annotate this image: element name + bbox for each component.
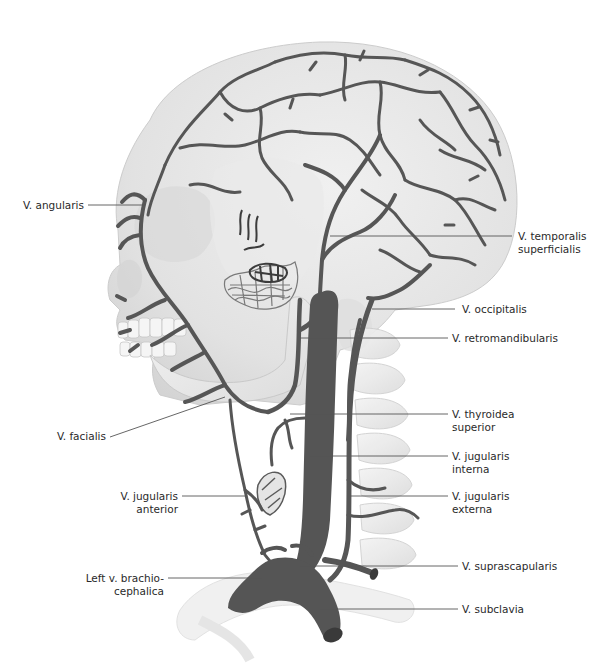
label-line: anterior [60,503,178,516]
label-line: Left v. brachio- [40,572,164,585]
label-v-jugularis-interna: V. jugularis interna [452,450,509,476]
label-v-jugularis-externa: V. jugularis externa [452,490,509,516]
label-line: V. jugularis [452,490,509,503]
label-v-jugularis-anterior: V. jugularis anterior [60,490,178,516]
label-v-suprascapularis: V. suprascapularis [462,560,557,573]
label-line: V. thyroidea [452,408,514,421]
anatomy-figure: V. angularis V. facialis V. jugularis an… [0,0,608,667]
v-thyroidea-superior [271,418,305,465]
label-line: V. retromandibularis [452,332,558,345]
label-v-facialis: V. facialis [20,430,106,443]
label-line: superficialis [518,243,586,256]
label-line: superior [452,421,514,434]
label-v-occipitalis: V. occipitalis [462,303,527,316]
label-line: cephalica [40,585,164,598]
label-line: V. suprascapularis [462,560,557,573]
label-line: V. facialis [20,430,106,443]
label-line: interna [452,463,509,476]
label-v-subclavia: V. subclavia [462,603,524,616]
label-line: V. subclavia [462,603,524,616]
label-v-thyroidea-superior: V. thyroidea superior [452,408,514,434]
label-line: V. temporalis [518,230,586,243]
cervical-spine [350,328,416,569]
label-line: V. occipitalis [462,303,527,316]
label-v-angularis: V. angularis [20,199,84,212]
label-v-retromandibularis: V. retromandibularis [452,332,558,345]
label-line: V. angularis [20,199,84,212]
label-v-temporalis-superficialis: V. temporalis superficialis [518,230,586,256]
label-line: externa [452,503,509,516]
label-line: V. jugularis [60,490,178,503]
label-line: V. jugularis [452,450,509,463]
label-left-v-brachiocephalica: Left v. brachio- cephalica [40,572,164,598]
